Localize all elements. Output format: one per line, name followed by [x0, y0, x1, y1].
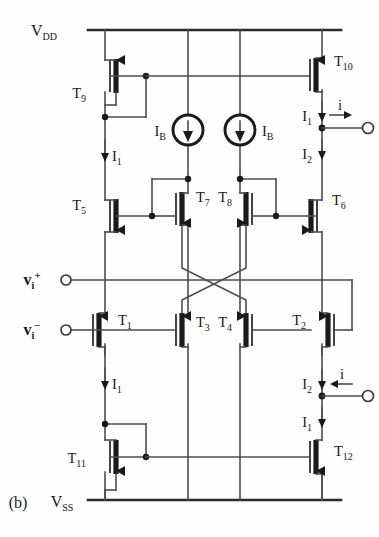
cross-coupling-wires: [182, 226, 246, 313]
label-T9: T9: [72, 85, 86, 104]
vi-minus-label: vi−: [24, 320, 41, 341]
label-T4: T4: [218, 314, 232, 333]
label-I2-right-upper: I2: [302, 146, 312, 165]
current-arrow-I1-left-upper: [101, 140, 109, 162]
transistor-T1: [93, 311, 108, 355]
transistor-T2: [319, 311, 334, 355]
circuit-svg: VDD VSS (b) vi+ vi− T9 T10 T5 T7 T8 T6 T…: [0, 0, 379, 537]
current-arrow-I2-right-upper: [318, 140, 326, 160]
current-arrow-I1-right-upper: [318, 102, 326, 122]
output-node-top: [319, 125, 362, 132]
label-T5: T5: [72, 197, 86, 216]
transistor-T6: [276, 199, 322, 235]
schematic-figure: VDD VSS (b) vi+ vi− T9 T10 T5 T7 T8 T6 T…: [0, 0, 379, 537]
label-T2: T2: [292, 312, 306, 331]
output-terminal-bottom[interactable]: [363, 391, 374, 402]
node-t9-drain: [102, 114, 108, 120]
current-arrow-I2-right-lower: [318, 370, 326, 390]
label-T12: T12: [334, 443, 353, 462]
vi-plus-label: vi+: [24, 270, 41, 291]
label-T6: T6: [332, 192, 346, 211]
node-T5-T7-gate: [149, 213, 155, 219]
label-T11: T11: [68, 450, 87, 469]
label-T1: T1: [118, 312, 132, 331]
label-i-top: i: [338, 97, 342, 113]
vi-minus-terminal[interactable]: [61, 325, 71, 335]
transistor-T8: [237, 179, 276, 228]
transistor-T11: [105, 424, 146, 500]
label-IB-right: IB: [262, 123, 274, 142]
vdd-label: VDD: [31, 22, 57, 42]
vi-plus-wire: [72, 280, 352, 330]
transistor-T10: [310, 55, 325, 92]
output-terminal-top[interactable]: [363, 123, 374, 134]
node-IB-right-bottom: [237, 176, 243, 182]
label-I1-right-lower: I1: [302, 414, 312, 433]
vss-label: VSS: [51, 493, 74, 513]
node-IB-left-bottom: [185, 176, 191, 182]
label-IB-left: IB: [154, 123, 166, 142]
node-T6-T8-gate: [273, 213, 279, 219]
current-source-IB-right: [225, 115, 255, 145]
label-I1-left-lower: I1: [112, 376, 122, 395]
vi-plus-terminal[interactable]: [61, 275, 71, 285]
label-T10: T10: [334, 53, 353, 72]
current-arrow-I1-right-lower: [318, 408, 326, 428]
label-I1-right-upper: I1: [302, 108, 312, 127]
label-I2-right-lower: I2: [302, 376, 312, 395]
figure-caption: (b): [9, 494, 28, 512]
transistor-T12: [310, 440, 325, 500]
label-I1-left-upper: I1: [112, 148, 122, 167]
label-T7: T7: [196, 189, 210, 208]
current-arrow-I1-left-lower: [101, 368, 109, 390]
transistor-T9: [105, 55, 146, 117]
label-T8: T8: [218, 189, 232, 208]
label-T3: T3: [196, 314, 210, 333]
transistor-T7: [152, 179, 191, 228]
output-node-bottom: [319, 393, 362, 400]
node-t11-drain: [102, 421, 108, 427]
label-i-bottom: i: [340, 366, 344, 382]
transistor-T5: [105, 199, 152, 235]
current-source-IB-left: [173, 115, 203, 145]
